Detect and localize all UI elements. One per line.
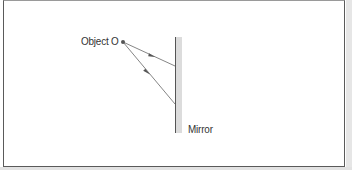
reflection-diagram xyxy=(0,0,352,170)
ray-2 xyxy=(123,42,175,104)
mirror-back-shade xyxy=(176,37,182,133)
ray-1-arrow-icon xyxy=(148,53,155,57)
object-point xyxy=(121,40,125,44)
object-label: Object O xyxy=(81,35,119,47)
mirror-label: Mirror xyxy=(188,123,213,135)
